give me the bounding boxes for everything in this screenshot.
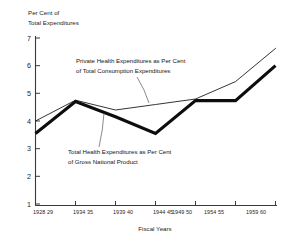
x-tick-label-5: 1954 55: [204, 209, 224, 215]
y-tick-label-7: 7: [27, 34, 31, 43]
y-tick-label-3: 3: [27, 144, 31, 153]
annotation-total-line2: of Gross National Product: [68, 158, 138, 165]
line-chart-canvas: Per Cent of Total Expenditures 7 6 5 4 3…: [0, 0, 286, 243]
x-tick-label-1: 1934 35: [73, 209, 93, 215]
x-tick-label-2: 1939 40: [113, 209, 133, 215]
chart-figure: Per Cent of Total Expenditures 7 6 5 4 3…: [0, 0, 286, 243]
annotation-total-line1: Total Health Expenditures as Per Cent: [68, 148, 172, 155]
y-axis-title-line2: Total Expenditures: [28, 19, 79, 26]
y-tick-label-4: 4: [27, 117, 31, 126]
y-tick-label-1: 1: [27, 200, 31, 209]
y-tick-label-6: 6: [27, 61, 31, 70]
y-tick-label-5: 5: [27, 89, 31, 98]
x-axis-title: Fiscal Years: [138, 225, 171, 232]
x-tick-label-6: 1959 60: [246, 209, 266, 215]
x-tick-label-4: 1949 50: [172, 209, 192, 215]
chart-background: [0, 0, 286, 243]
x-tick-label-0: 1928 29: [33, 209, 53, 215]
annotation-private-line1: Private Health Expenditures as Per Cent: [76, 57, 186, 64]
y-axis-title-line1: Per Cent of: [28, 9, 60, 16]
x-tick-label-3: 1944 45: [153, 209, 173, 215]
y-tick-label-2: 2: [27, 172, 31, 181]
annotation-private-line2: of Total Consumption Expenditures: [76, 67, 170, 74]
